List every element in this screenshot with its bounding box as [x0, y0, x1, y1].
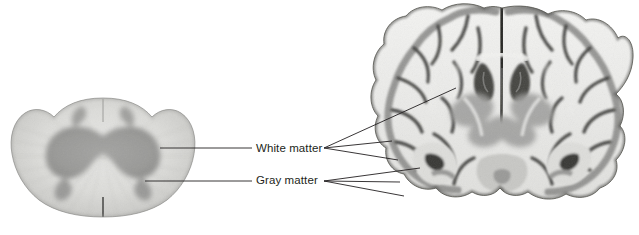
label-gray-matter: Gray matter	[256, 175, 318, 187]
anatomy-figure: White matter Gray matter	[0, 0, 639, 235]
leader-white-matter-brain-1	[324, 88, 456, 148]
leader-gray-matter-brain-3	[324, 181, 404, 196]
leader-gray-matter-brain-1	[324, 168, 420, 181]
leader-gray-matter-brain-2	[324, 181, 400, 182]
leader-white-matter-brain-3	[324, 148, 398, 160]
label-white-matter: White matter	[256, 143, 322, 155]
leader-lines	[0, 0, 639, 235]
leader-white-matter-brain-2	[324, 141, 392, 148]
